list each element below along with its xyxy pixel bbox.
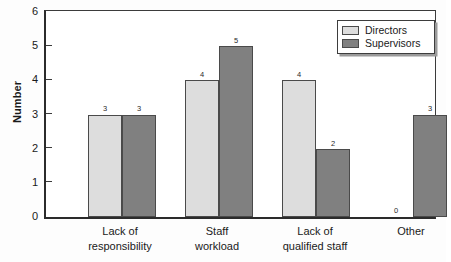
legend-item-supervisors[interactable]: Supervisors: [342, 37, 429, 50]
bar-value-directors-staff-workload: 4: [185, 70, 219, 79]
bar-value-directors-lack-of-qualified-staff: 4: [282, 70, 316, 79]
bar-directors-lack-of-qualified-staff[interactable]: [282, 80, 316, 217]
x-label-lack-of-qualified-staff: Lack of qualified staff: [269, 224, 361, 253]
bar-supervisors-other[interactable]: [413, 115, 447, 218]
bar-value-directors-other: 0: [379, 206, 413, 215]
y-tick-label-2: 2: [20, 141, 38, 155]
x-axis-labels: Lack of responsibility Staff workload La…: [44, 224, 436, 262]
bar-group-lack-of-responsibility: 3 3: [88, 11, 156, 217]
legend-swatch-supervisors-icon: [342, 39, 359, 48]
y-tick-label-3: 3: [20, 107, 38, 121]
x-label-line1: Other: [371, 224, 451, 239]
x-label-line2: qualified staff: [269, 239, 361, 254]
x-label-line1: Staff: [177, 224, 257, 239]
bar-supervisors-lack-of-responsibility[interactable]: [122, 115, 156, 218]
bar-value-supervisors-lack-of-qualified-staff: 2: [316, 139, 350, 148]
legend-label-supervisors: Supervisors: [365, 37, 420, 50]
x-label-staff-workload: Staff workload: [177, 224, 257, 253]
y-tick-label-6: 6: [20, 4, 38, 18]
bar-value-supervisors-staff-workload: 5: [219, 36, 253, 45]
x-label-line2: workload: [177, 239, 257, 254]
y-tick-label-5: 5: [20, 38, 38, 52]
x-label-other: Other: [371, 224, 451, 239]
legend-item-directors[interactable]: Directors: [342, 24, 429, 37]
y-tick-label-0: 0: [20, 209, 38, 223]
x-label-line1: Lack of: [269, 224, 361, 239]
bar-value-supervisors-lack-of-responsibility: 3: [122, 104, 156, 113]
bar-directors-lack-of-responsibility[interactable]: [88, 115, 122, 218]
x-label-lack-of-responsibility: Lack of responsibility: [80, 224, 160, 253]
bar-group-staff-workload: 4 5: [185, 11, 253, 217]
bar-value-directors-lack-of-responsibility: 3: [88, 104, 122, 113]
x-label-line1: Lack of: [80, 224, 160, 239]
bar-supervisors-staff-workload[interactable]: [219, 46, 253, 217]
x-label-line2: responsibility: [80, 239, 160, 254]
legend-swatch-directors-icon: [342, 26, 359, 35]
y-tick-label-1: 1: [20, 175, 38, 189]
legend: Directors Supervisors: [337, 20, 435, 54]
bar-value-supervisors-other: 3: [413, 104, 447, 113]
bar-supervisors-lack-of-qualified-staff[interactable]: [316, 149, 350, 217]
legend-label-directors: Directors: [365, 24, 407, 37]
y-axis-title: Number: [11, 57, 23, 147]
y-tick-label-4: 4: [20, 72, 38, 86]
bar-directors-staff-workload[interactable]: [185, 80, 219, 217]
